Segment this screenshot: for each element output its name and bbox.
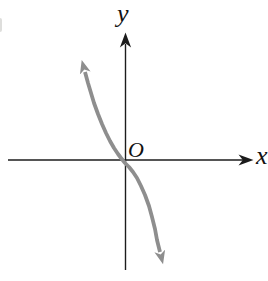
figure-canvas: y x O <box>0 0 268 281</box>
y-axis-label: y <box>117 1 129 27</box>
origin-label: O <box>128 139 144 161</box>
x-axis-label: x <box>256 143 268 169</box>
cubic-curve-path <box>85 72 160 252</box>
